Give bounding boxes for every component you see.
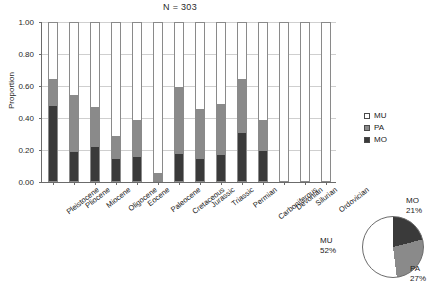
bar-segment-mo — [238, 133, 246, 181]
bar-segment-pa — [91, 107, 99, 147]
bar-group — [237, 22, 247, 182]
x-axis-labels: PleistocenePlioceneMioceneOligoceneEocen… — [41, 186, 335, 256]
bar-segment-mu — [174, 22, 184, 182]
bar-segment-mu — [153, 22, 163, 182]
bar-segment-pa — [196, 109, 204, 159]
x-axis-label: Permian — [251, 186, 278, 210]
y-tick-label: 0.40 — [18, 115, 34, 123]
x-tick-mark — [158, 182, 159, 185]
x-tick-mark — [179, 182, 180, 185]
x-tick-mark — [242, 182, 243, 185]
bar-segment-mu — [237, 22, 247, 182]
y-tick-label: 0.00 — [18, 179, 34, 187]
pie-label-pa: PA 27% — [410, 264, 426, 283]
bar-segment-mo — [133, 157, 141, 181]
x-tick-mark — [200, 182, 201, 185]
bar-group — [300, 22, 310, 182]
bar-group — [174, 22, 184, 182]
y-tick-label: 0.20 — [18, 147, 34, 155]
bar-segment-mo — [70, 152, 78, 181]
x-tick-mark — [137, 182, 138, 185]
pie-label-mu-name: MU — [320, 236, 332, 245]
bar-group — [90, 22, 100, 182]
legend-label: PA — [374, 124, 384, 132]
bar-segment-mu — [258, 22, 268, 182]
bar-segment-pa — [49, 79, 57, 106]
legend-label: MU — [374, 112, 386, 120]
legend: MUPAMO — [364, 110, 424, 146]
bar-segment-pa — [217, 104, 225, 155]
x-tick-mark — [74, 182, 75, 185]
y-tick-label: 0.60 — [18, 83, 34, 91]
bar-group — [195, 22, 205, 182]
bar-group — [132, 22, 142, 182]
legend-label: MO — [374, 136, 387, 144]
bar-segment-mu — [216, 22, 226, 182]
x-axis-label: Ordovician — [337, 186, 370, 214]
legend-item-pa: PA — [364, 122, 424, 134]
bar-segment-pa — [112, 136, 120, 158]
bar-segment-mu — [132, 22, 142, 182]
pie-label-mo-name: MO — [406, 196, 419, 205]
legend-swatch-icon — [364, 113, 370, 119]
bar-group — [258, 22, 268, 182]
bar-group — [216, 22, 226, 182]
bar-group — [111, 22, 121, 182]
bar-segment-mu — [69, 22, 79, 182]
bar-segment-mo — [112, 159, 120, 181]
x-tick-mark — [284, 182, 285, 185]
bar-group — [48, 22, 58, 182]
y-tick-label: 0.80 — [18, 51, 34, 59]
bar-group — [279, 22, 289, 182]
x-tick-mark — [326, 182, 327, 185]
legend-item-mu: MU — [364, 110, 424, 122]
y-axis-title: Proportion — [7, 61, 16, 121]
bar-segment-mo — [217, 155, 225, 181]
bar-segment-mu — [279, 22, 289, 182]
legend-item-mo: MO — [364, 134, 424, 146]
x-tick-mark — [116, 182, 117, 185]
bar-segment-pa — [175, 87, 183, 154]
bar-segment-mo — [196, 159, 204, 181]
bar-segment-mo — [259, 151, 267, 181]
bar-segment-mu — [90, 22, 100, 182]
bar-segment-mu — [48, 22, 58, 182]
bar-segment-pa — [259, 120, 267, 150]
pie-chart: MO 21% PA 27% MU 52% — [354, 212, 428, 286]
bar-segment-mo — [175, 154, 183, 181]
x-tick-mark — [305, 182, 306, 185]
bar-segment-mu — [321, 22, 331, 182]
x-tick-mark — [53, 182, 54, 185]
bar-segment-pa — [133, 120, 141, 157]
bar-segment-mo — [49, 106, 57, 181]
legend-swatch-icon — [364, 125, 370, 131]
bars-layer — [42, 22, 336, 182]
bar-segment-mo — [91, 147, 99, 181]
bar-segment-pa — [70, 95, 78, 153]
bar-group — [69, 22, 79, 182]
x-tick-mark — [263, 182, 264, 185]
y-tick-label: 1.00 — [18, 19, 34, 27]
pie-label-mo-percent: 21% — [406, 206, 422, 216]
bar-segment-mu — [111, 22, 121, 182]
pie-label-pa-name: PA — [410, 264, 420, 273]
bar-segment-pa — [238, 79, 246, 133]
pie-label-mu-percent: 52% — [320, 246, 336, 256]
chart-title: N = 303 — [0, 2, 360, 12]
plot-area: 0.000.200.400.600.801.00 — [41, 22, 336, 183]
bar-group — [321, 22, 331, 182]
bar-group — [153, 22, 163, 182]
pie-label-mu: MU 52% — [320, 236, 336, 255]
pie-label-pa-percent: 27% — [410, 274, 426, 284]
y-tick-mark: 0.00 — [39, 182, 42, 183]
bar-segment-mu — [300, 22, 310, 182]
bar-segment-pa — [154, 173, 162, 181]
legend-swatch-icon — [364, 137, 370, 143]
pie-label-mo: MO 21% — [406, 196, 422, 215]
bar-segment-mu — [195, 22, 205, 182]
